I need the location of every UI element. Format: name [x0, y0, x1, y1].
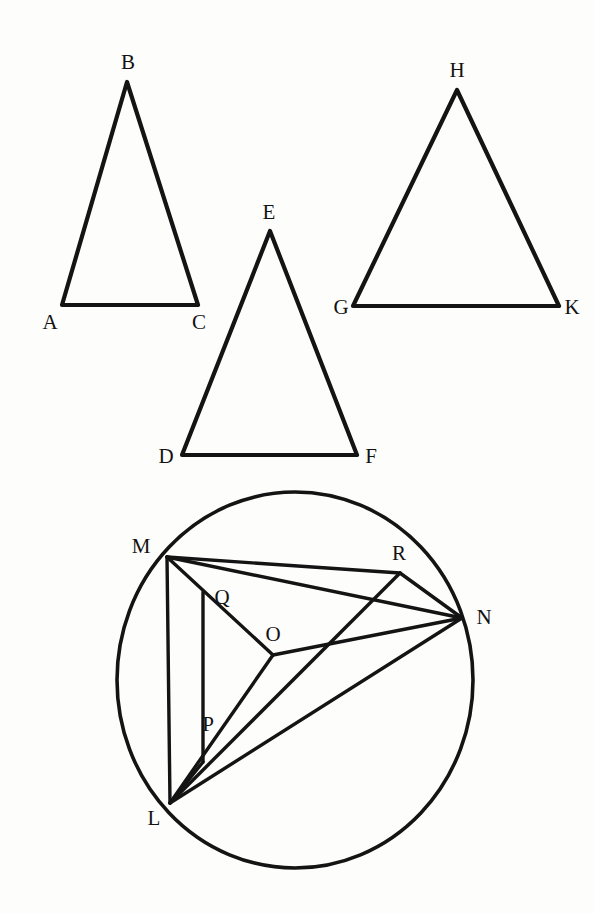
triangle-def: [182, 231, 357, 455]
vertex-label-b: B: [121, 52, 135, 73]
vertex-label-p: P: [202, 714, 214, 735]
segment-m-l: [167, 557, 170, 803]
vertex-label-d: D: [158, 446, 173, 467]
triangle-abc: [62, 82, 198, 305]
vertex-label-n: N: [476, 607, 491, 628]
vertex-label-m: M: [132, 536, 151, 557]
vertex-label-k: K: [564, 297, 579, 318]
vertex-label-g: G: [333, 297, 348, 318]
vertex-label-l: L: [148, 808, 161, 829]
vertex-label-r: R: [392, 543, 406, 564]
triangle-abc-outline: [62, 82, 198, 305]
geometry-figure: A B C D E F G H K M N L O P Q R: [0, 0, 594, 913]
vertex-label-h: H: [449, 60, 464, 81]
vertex-label-o: O: [265, 624, 280, 645]
circle-figure: [117, 492, 473, 868]
vertex-label-e: E: [263, 202, 276, 223]
vertex-label-f: F: [365, 446, 377, 467]
vertex-label-a: A: [42, 312, 57, 333]
segment-o-l: [170, 655, 273, 803]
triangle-ghk: [353, 90, 559, 306]
figure-canvas: [0, 0, 594, 913]
vertex-label-q: Q: [214, 587, 229, 608]
triangle-ghk-outline: [353, 90, 559, 306]
vertex-label-c: C: [192, 312, 206, 333]
triangle-def-outline: [182, 231, 357, 455]
